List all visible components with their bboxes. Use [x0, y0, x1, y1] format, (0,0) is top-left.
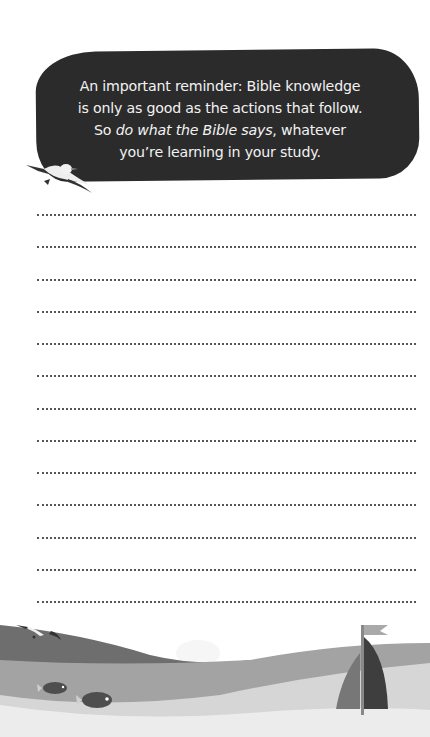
writing-line [37, 279, 416, 281]
writing-line [37, 343, 416, 345]
writing-line [37, 246, 416, 248]
reminder-text: An important reminder: Bible knowledge i… [60, 75, 380, 163]
reminder-line-3: So do what the Bible says, whatever [60, 119, 380, 141]
seagull-icon [24, 155, 94, 195]
reminder-emphasis: do what the Bible says [116, 122, 273, 138]
writing-line [37, 504, 416, 506]
reminder-line-3-suffix: , whatever [272, 122, 346, 138]
writing-line [37, 569, 416, 571]
sea-scene [0, 615, 430, 737]
writing-line [37, 472, 416, 474]
reminder-line-4: you’re learning in your study. [60, 141, 380, 163]
reminder-line-2: is only as good as the actions that foll… [60, 97, 380, 119]
writing-line [37, 214, 416, 216]
writing-line [37, 601, 416, 603]
writing-line [37, 537, 416, 539]
writing-line [37, 408, 416, 410]
writing-line [37, 375, 416, 377]
writing-line [37, 440, 416, 442]
reminder-line-1: An important reminder: Bible knowledge [60, 75, 380, 97]
writing-line [37, 311, 416, 313]
reminder-line-3-prefix: So [94, 122, 116, 138]
